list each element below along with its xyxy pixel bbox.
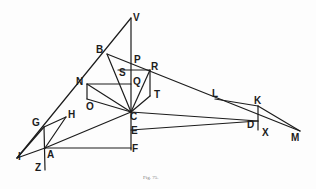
label-M: M bbox=[291, 133, 299, 143]
label-S: S bbox=[119, 68, 126, 78]
label-T: T bbox=[154, 90, 160, 100]
label-G: G bbox=[32, 118, 40, 128]
label-B: B bbox=[96, 45, 103, 55]
label-O: O bbox=[86, 102, 94, 112]
label-F: F bbox=[132, 144, 138, 154]
label-L: L bbox=[212, 89, 218, 99]
label-P: P bbox=[134, 55, 141, 65]
label-Q: Q bbox=[133, 77, 141, 87]
label-N: N bbox=[76, 77, 83, 87]
label-K: K bbox=[254, 96, 261, 106]
label-C: C bbox=[130, 112, 137, 122]
label-I: I bbox=[18, 152, 21, 162]
label-E: E bbox=[131, 126, 138, 136]
geometric-figure: V B P S R Q N O T C E F L K D X M G H I … bbox=[0, 0, 316, 189]
label-H: H bbox=[68, 110, 75, 120]
label-X: X bbox=[262, 128, 269, 138]
label-D: D bbox=[247, 120, 254, 130]
label-Z: Z bbox=[35, 163, 41, 173]
figure-caption: Fig. 75. bbox=[143, 175, 158, 180]
label-R: R bbox=[151, 62, 158, 72]
label-A: A bbox=[47, 150, 54, 160]
label-V: V bbox=[133, 13, 140, 23]
